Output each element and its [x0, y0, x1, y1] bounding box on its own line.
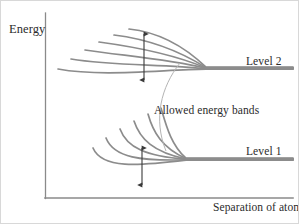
- level-1-label: Level 1: [246, 146, 282, 158]
- y-axis-label: Energy: [9, 23, 45, 36]
- energy-band-diagram: Energy Separation of atoms Level 2 Level…: [0, 0, 299, 224]
- x-axis-label: Separation of atoms: [213, 202, 299, 214]
- allowed-energy-bands-label: Allowed energy bands: [154, 105, 259, 117]
- level-2-label: Level 2: [246, 56, 282, 68]
